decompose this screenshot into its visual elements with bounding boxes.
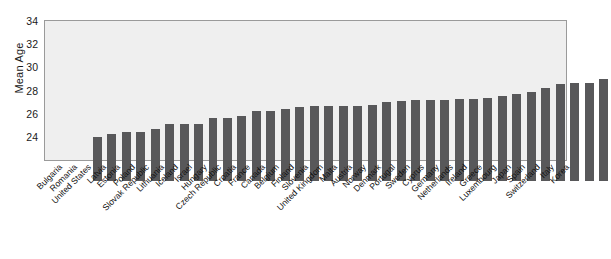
bar-slot <box>585 42 594 181</box>
bar-slot <box>397 42 406 181</box>
bar-slot <box>180 42 189 181</box>
bar-slot <box>209 42 218 181</box>
bar-slot <box>483 42 492 181</box>
bar-slot <box>107 42 116 181</box>
bar-slot <box>570 42 579 181</box>
bar-slot <box>440 42 449 181</box>
plot-area <box>44 20 567 161</box>
bar-slot <box>237 42 246 181</box>
bar <box>599 79 608 182</box>
bar-slot <box>556 42 565 181</box>
bar-slot <box>93 42 102 181</box>
bar-slot <box>411 42 420 181</box>
bar-slot <box>469 42 478 181</box>
y-tick-label: 32 <box>0 38 38 50</box>
bar <box>585 83 594 181</box>
y-tick-label: 28 <box>0 85 38 97</box>
bar-slot <box>455 42 464 181</box>
y-tick-label: 24 <box>0 131 38 143</box>
bar-slot <box>368 42 377 181</box>
bar-slot <box>295 42 304 181</box>
bar-slot <box>426 42 435 181</box>
bar-slot <box>281 42 290 181</box>
bar <box>570 83 579 181</box>
bar-series <box>90 42 611 181</box>
bar-slot <box>252 42 261 181</box>
bar-slot <box>324 42 333 181</box>
bar-slot <box>151 42 160 181</box>
bar-slot <box>541 42 550 181</box>
bar-slot <box>353 42 362 181</box>
bar-slot <box>512 42 521 181</box>
bar-slot <box>122 42 131 181</box>
y-tick-label: 26 <box>0 108 38 120</box>
bar-slot <box>498 42 507 181</box>
bar-slot <box>310 42 319 181</box>
bar-slot <box>223 42 232 181</box>
bar-slot <box>599 42 608 181</box>
bar-slot <box>165 42 174 181</box>
y-tick-label: 34 <box>0 15 38 27</box>
bar-slot <box>339 42 348 181</box>
bar-slot <box>382 42 391 181</box>
bar-slot <box>136 42 145 181</box>
bar-slot <box>527 42 536 181</box>
y-tick-label: 30 <box>0 61 38 73</box>
bar-slot <box>266 42 275 181</box>
bar-slot <box>194 42 203 181</box>
x-axis-tick-labels: BulgariaRomaniaUnited StatesLatviaEstoni… <box>45 162 566 257</box>
